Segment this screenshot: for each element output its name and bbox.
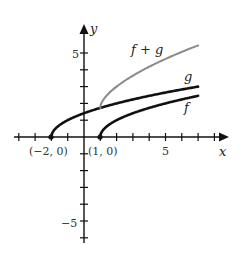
y-axis-label: y — [89, 21, 98, 36]
point-label-minus2-0: (−2, 0) — [29, 145, 68, 158]
point-1-0 — [97, 134, 102, 139]
point-label-1-0: (1, 0) — [88, 145, 118, 158]
curve-g — [51, 87, 198, 137]
x-axis-arrow-icon — [219, 133, 229, 142]
curve-label-f-plus-g: f + g — [130, 42, 163, 57]
y-tick-label-minus5: −5 — [61, 217, 77, 230]
curve-label-g: g — [184, 69, 192, 84]
point-minus2-0 — [48, 134, 53, 139]
y-tick-label-5: 5 — [72, 48, 79, 61]
x-tick-label-5: 5 — [162, 145, 169, 158]
curve-label-f: f — [183, 100, 191, 115]
function-graph: y x 5 −5 5 (−2, 0) (1, 0) f + g g f — [0, 0, 241, 261]
y-axis-arrow-icon — [80, 24, 89, 34]
x-axis-label: x — [219, 144, 227, 159]
